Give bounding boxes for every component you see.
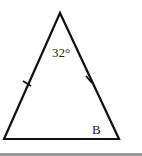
bottom-rule — [0, 153, 142, 156]
base-angle-label: B — [92, 122, 101, 137]
apex-angle-label: 32° — [52, 45, 70, 60]
triangle-diagram: 32° B — [0, 0, 142, 156]
triangle — [4, 13, 119, 139]
